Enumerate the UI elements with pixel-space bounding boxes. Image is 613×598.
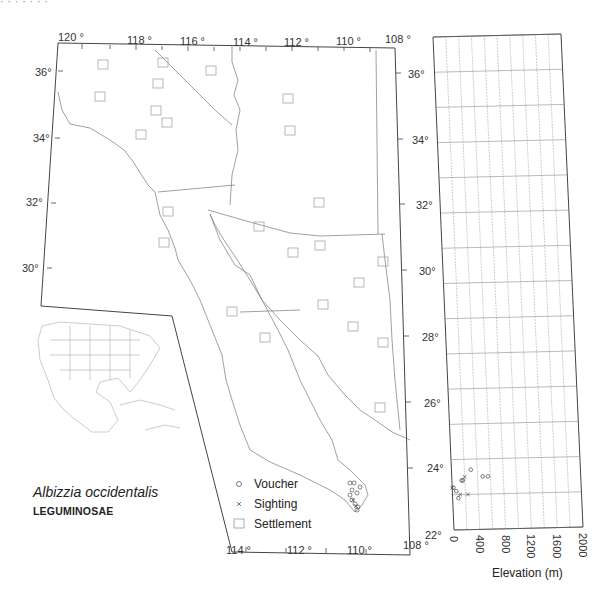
longitude-label: 114 ° xyxy=(233,37,258,48)
settlement-marker xyxy=(95,92,105,101)
latitude-label: 24° xyxy=(427,463,444,474)
voucher-marker xyxy=(355,491,359,495)
latitude-label: 34° xyxy=(412,135,429,146)
inset-map-north-america xyxy=(38,322,180,432)
voucher-marker xyxy=(358,485,362,489)
elevation-axis-label: Elevation (m) xyxy=(492,566,563,580)
settlement-marker xyxy=(136,130,146,139)
latitude-label: 30° xyxy=(419,266,436,277)
settlement-marker xyxy=(153,79,163,88)
voucher-marker xyxy=(350,488,354,492)
settlement-marker xyxy=(283,94,293,103)
legend: Voucher Sighting Settlement xyxy=(232,474,311,534)
settlement-marker xyxy=(260,333,270,342)
settlement-marker xyxy=(285,126,295,135)
voucher-marker xyxy=(348,493,352,497)
longitude-label: 110 ° xyxy=(347,545,372,556)
elevation-grid xyxy=(433,34,583,530)
elevation-voucher-point xyxy=(454,489,458,493)
elevation-points xyxy=(450,468,489,500)
settlement-marker xyxy=(315,241,325,250)
settlement-marker xyxy=(162,118,172,127)
coastlines xyxy=(58,45,410,512)
elevation-tick-label: 1600 xyxy=(551,534,563,558)
species-name: Albizzia occidentalis xyxy=(33,484,158,500)
settlement-marker xyxy=(206,66,216,75)
family-name: LEGUMINOSAE xyxy=(33,505,113,517)
voucher-marker xyxy=(348,481,352,485)
settlement-marker xyxy=(314,198,324,207)
figure: · · · · · · · xyxy=(0,0,613,598)
settlement-marker xyxy=(348,322,358,331)
settlement-square-icon xyxy=(232,518,246,530)
settlement-marker xyxy=(151,106,161,115)
settlement-marker xyxy=(288,248,298,257)
legend-label: Sighting xyxy=(254,497,297,511)
latitude-label: 28° xyxy=(422,332,439,343)
latitude-label: 26° xyxy=(424,398,441,409)
settlement-marker xyxy=(378,338,388,347)
settlement-marker xyxy=(163,207,173,216)
sighting-x-icon xyxy=(232,500,246,508)
settlement-marker xyxy=(98,60,108,69)
longitude-label: 116 ° xyxy=(180,36,205,47)
elevation-voucher-point xyxy=(469,468,473,472)
settlement-marker xyxy=(159,238,169,247)
legend-item-settlement: Settlement xyxy=(232,514,311,534)
legend-label: Settlement xyxy=(254,517,311,531)
settlement-marker xyxy=(354,278,364,287)
settlement-marker xyxy=(227,307,237,316)
longitude-label: 120 ° xyxy=(58,32,84,43)
longitude-label: 118 ° xyxy=(127,35,152,46)
map-ticks xyxy=(47,44,413,554)
elevation-tick-label: 400 xyxy=(474,535,486,553)
latitude-label: 32° xyxy=(416,200,433,211)
elevation-voucher-point xyxy=(457,496,461,500)
elevation-tick-label: 1200 xyxy=(525,534,537,558)
longitude-label: 112 ° xyxy=(287,545,312,556)
elevation-voucher-point xyxy=(486,475,490,479)
voucher-circle-icon xyxy=(232,480,246,488)
legend-item-voucher: Voucher xyxy=(232,474,311,494)
elevation-tick-label: 2000 xyxy=(577,533,589,557)
voucher-marker xyxy=(352,481,356,485)
elevation-voucher-point xyxy=(481,475,485,479)
settlement-marker xyxy=(378,257,388,266)
latitude-label: 34° xyxy=(33,133,50,144)
latitude-label: 36° xyxy=(35,67,52,78)
longitude-label: 112 ° xyxy=(284,37,309,48)
longitude-label: 114 ° xyxy=(226,545,251,556)
legend-label: Voucher xyxy=(254,477,298,491)
map-frame xyxy=(41,43,410,555)
settlement-marker xyxy=(318,300,328,309)
longitude-label: 108 ° xyxy=(385,34,411,45)
legend-item-sighting: Sighting xyxy=(232,494,311,514)
elevation-tick-label: 800 xyxy=(500,535,512,553)
longitude-label: 110 ° xyxy=(336,36,361,47)
longitude-label: 108 ° xyxy=(403,540,429,551)
elevation-tick-label: 0 xyxy=(448,536,460,542)
settlement-marker xyxy=(375,403,385,412)
latitude-label: 32° xyxy=(26,197,43,208)
settlement-marker xyxy=(158,58,168,67)
latitude-label: 36° xyxy=(408,69,425,80)
latitude-label: 30° xyxy=(22,263,39,274)
